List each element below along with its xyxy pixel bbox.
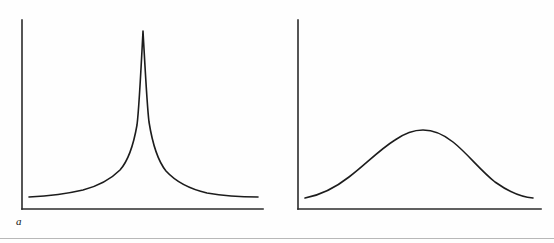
panel-label-a: a	[16, 216, 22, 227]
curve-a-leptokurtic	[29, 31, 258, 197]
chart-panel-b: b	[277, 0, 554, 243]
curve-b-platykurtic	[305, 130, 533, 198]
bottom-divider-rule	[0, 238, 554, 239]
figure-root: a b	[0, 0, 554, 243]
chart-b-svg	[277, 0, 554, 243]
chart-panel-a: a	[0, 0, 277, 243]
chart-a-svg	[0, 0, 277, 243]
